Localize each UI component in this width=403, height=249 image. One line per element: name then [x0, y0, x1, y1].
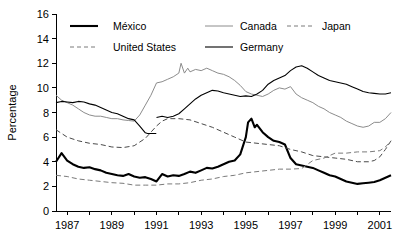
line-chart: 0246810121416 19871989199119931995199719… — [0, 0, 403, 249]
series-line — [56, 63, 391, 127]
x-tick-label: 1989 — [100, 219, 124, 231]
y-axis: 0246810121416 — [37, 8, 56, 217]
x-tick-label: 2001 — [368, 219, 392, 231]
legend-item: Germany — [205, 41, 284, 53]
legend-item: México — [70, 20, 146, 32]
legend-label: Japan — [322, 20, 351, 32]
legend-label: México — [113, 20, 146, 32]
legend-item: Canada — [205, 20, 277, 32]
legend-label: United States — [113, 41, 176, 53]
chart-container: 0246810121416 19871989199119931995199719… — [0, 0, 403, 249]
legend-label: Germany — [240, 41, 284, 53]
series-line — [56, 119, 391, 162]
y-tick-label: 14 — [37, 33, 49, 45]
y-tick-label: 8 — [43, 107, 49, 119]
chart-legend: MéxicoCanadaJapanUnited StatesGermany — [70, 20, 351, 53]
x-tick-label: 1991 — [144, 219, 168, 231]
y-tick-label: 10 — [37, 82, 49, 94]
y-tick-label: 2 — [43, 180, 49, 192]
legend-item: Japan — [287, 20, 351, 32]
series-lines — [56, 63, 391, 185]
legend-label: Canada — [240, 20, 277, 32]
x-tick-label: 1993 — [189, 219, 213, 231]
y-tick-label: 6 — [43, 131, 49, 143]
legend-item: United States — [70, 41, 176, 53]
series-line — [157, 66, 392, 118]
x-axis: 19871989199119931995199719992001 — [55, 211, 392, 231]
y-tick-label: 12 — [37, 57, 49, 69]
x-tick-label: 1999 — [323, 219, 347, 231]
y-tick-label: 0 — [43, 205, 49, 217]
y-tick-label: 16 — [37, 8, 49, 20]
x-tick-label: 1997 — [278, 219, 302, 231]
y-tick-label: 4 — [43, 156, 49, 168]
series-line — [56, 119, 391, 184]
y-axis-title: Percentage — [6, 84, 18, 140]
x-tick-label: 1995 — [234, 219, 258, 231]
x-tick-label: 1987 — [55, 219, 79, 231]
y-axis-title-text: Percentage — [6, 84, 18, 140]
